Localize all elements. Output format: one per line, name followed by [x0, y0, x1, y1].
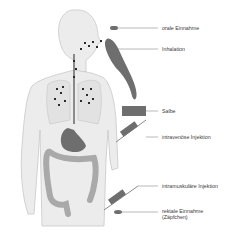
leader-lines [118, 28, 158, 212]
suppository-icon [114, 210, 122, 214]
pill-icon [110, 26, 118, 30]
label-intramuscular-injection: intramuskuläre Injektion [162, 183, 218, 189]
drug-administration-diagram [0, 0, 246, 243]
label-inhalation: Inhalation [162, 46, 185, 52]
label-ointment: Salbe [162, 108, 176, 114]
label-rectal-suppository: (Zäpfchen) [162, 214, 188, 220]
label-intravenous-injection: intravenöse Injektion [162, 134, 211, 140]
iv-syringe-icon [116, 120, 146, 142]
im-syringe-icon [104, 186, 138, 210]
ointment-tube-icon [122, 106, 146, 116]
label-oral-intake: orale Einnahme [162, 25, 199, 31]
